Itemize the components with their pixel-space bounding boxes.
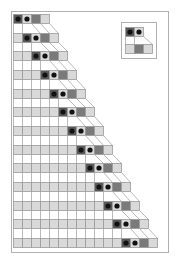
tape-cell	[95, 127, 104, 136]
diagonal-connector	[104, 136, 113, 146]
row-connectors	[14, 155, 122, 164]
head-dot-icon	[60, 91, 65, 96]
tape-cell	[113, 164, 122, 173]
diagonal-connector	[41, 24, 50, 34]
diagonal-connector	[50, 43, 59, 52]
tape-cell	[59, 239, 68, 248]
tape-cell	[149, 239, 158, 248]
tape-cell	[41, 127, 50, 136]
tape-row	[14, 127, 104, 136]
tape-cell	[113, 183, 122, 192]
tape-cell	[14, 108, 23, 117]
tape-cell	[68, 71, 77, 80]
head-dot-icon	[42, 72, 47, 77]
tape-cell	[14, 220, 23, 229]
tape-cell	[77, 90, 86, 99]
diagonal-connector	[77, 99, 86, 108]
tape-cell	[68, 146, 77, 155]
tape-row	[14, 146, 113, 155]
tape-cell	[23, 90, 32, 99]
tape-cell	[68, 220, 77, 229]
tape-cell	[77, 164, 86, 173]
diagonal-connector	[59, 43, 68, 52]
tape-cell	[50, 146, 59, 155]
tape-cell	[32, 183, 41, 192]
head-dot-icon	[87, 147, 92, 152]
tape-cell	[68, 202, 77, 211]
head-dot-icon	[51, 72, 56, 77]
diagonal-connector	[122, 173, 131, 183]
tape-cell	[59, 164, 68, 173]
tape-cell	[59, 220, 68, 229]
tape-cell	[77, 183, 86, 192]
diagonal-connector	[86, 99, 95, 108]
tape-cell	[23, 127, 32, 136]
tape-cell	[104, 146, 113, 155]
tape-cell	[59, 52, 68, 61]
tape-cell	[23, 108, 32, 117]
diagonal-connector	[59, 80, 68, 90]
tape-cell	[59, 202, 68, 211]
tape-cell	[32, 220, 41, 229]
diagonal-connector	[122, 192, 131, 202]
tape-row	[14, 71, 77, 80]
tape-cell	[14, 202, 23, 211]
tape-row	[14, 34, 59, 43]
tape-cell	[14, 164, 23, 173]
diagonal-connector	[32, 24, 41, 34]
diagonal-connector	[140, 211, 149, 220]
head-dot-icon	[24, 16, 29, 21]
tape-cell	[50, 183, 59, 192]
row-connectors	[14, 192, 140, 202]
head-dot-icon	[105, 184, 110, 189]
tape-cell	[23, 202, 32, 211]
row-connectors	[14, 61, 77, 71]
tape-cell	[95, 146, 104, 155]
tape-cell	[50, 220, 59, 229]
tape-cell	[32, 164, 41, 173]
row-connectors	[14, 80, 86, 90]
diagonal-connector	[95, 117, 104, 127]
tape-cell	[32, 71, 41, 80]
diagonal-connector	[140, 229, 149, 239]
tape-cell	[41, 183, 50, 192]
tape-cell	[41, 15, 50, 24]
diagonal-connector	[131, 211, 140, 220]
tape-cell	[32, 202, 41, 211]
tape-cell	[50, 202, 59, 211]
diagonal-connector	[68, 80, 77, 90]
tape-cell	[77, 202, 86, 211]
rule-output-cell	[144, 45, 153, 54]
tape-cell	[41, 220, 50, 229]
tape-cell	[86, 202, 95, 211]
head-dot-icon	[42, 53, 47, 58]
diagonal-connector	[41, 43, 50, 52]
tape-cell	[50, 164, 59, 173]
tape-cell	[59, 146, 68, 155]
diagonal-connector	[77, 80, 86, 90]
row-connectors	[14, 173, 131, 183]
tape-cell	[86, 239, 95, 248]
tape-cell	[122, 202, 131, 211]
tape-cell	[23, 164, 32, 173]
diagonal-connector	[59, 61, 68, 71]
tape-cell	[140, 239, 149, 248]
tape-cell	[41, 90, 50, 99]
diagonal-connector	[104, 173, 113, 183]
tape-cell	[32, 108, 41, 117]
tape-cell	[59, 183, 68, 192]
tape-cell	[50, 239, 59, 248]
diagonal-connector	[131, 192, 140, 202]
row-connectors	[14, 211, 149, 220]
tape-cell	[14, 183, 23, 192]
tape-cell	[50, 127, 59, 136]
diagonal-connector	[122, 211, 131, 220]
rule-output-cell	[135, 45, 144, 54]
diagonal-connector	[113, 173, 122, 183]
tape-row	[14, 239, 158, 248]
diagonal-connector	[86, 117, 95, 127]
tape-row	[14, 164, 122, 173]
tape-cell	[14, 239, 23, 248]
tape-cell	[86, 220, 95, 229]
row-connectors	[14, 43, 68, 52]
